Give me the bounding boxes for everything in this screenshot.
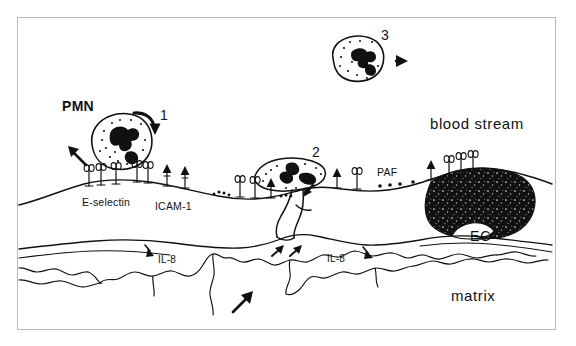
icam1-receptor-right: [333, 168, 342, 188]
label-e-selectin: E-selectin: [82, 196, 130, 208]
arrow-matrix-up-right: [233, 291, 253, 312]
diagram-canvas: PMN blood stream matrix EC E-selectin IC…: [0, 0, 576, 346]
label-step-1: 1: [160, 107, 168, 123]
matrix-fibril-network: [19, 251, 548, 315]
label-step-2: 2: [312, 144, 320, 160]
label-il8-right: IL-8: [327, 253, 345, 264]
e-selectin-receptor: [235, 176, 245, 197]
label-il8-left: IL-8: [158, 254, 176, 265]
icam1-receptor-group: [163, 164, 190, 188]
arrow-pmn-up-left: [68, 146, 86, 165]
icam1-receptor: [181, 166, 190, 188]
label-ec: EC: [470, 228, 491, 244]
arrow-il8-left-down: [145, 245, 154, 257]
icam1-receptor: [163, 164, 172, 186]
e-selectin-receptor: [111, 163, 121, 184]
icam1-receptor: [427, 160, 436, 180]
label-pmn: PMN: [62, 98, 94, 114]
arrow-cell2-down: [303, 185, 313, 197]
label-paf: PAF: [377, 166, 397, 178]
icam1-receptor: [267, 178, 276, 198]
e-selectin-receptor: [143, 162, 153, 183]
arrow-il8-right-down: [363, 247, 373, 259]
pmn-transmigrating-cell: [255, 158, 326, 240]
label-blood-stream: blood stream: [430, 115, 524, 132]
arrow-matrix-pair-b: [290, 245, 302, 256]
pmn-rolling-cell: [92, 114, 152, 170]
e-selectin-receptor-single: [352, 168, 362, 189]
label-step-3: 3: [381, 27, 389, 43]
arrow-cell3-right: [396, 55, 408, 67]
arrow-matrix-pair-a: [272, 245, 284, 256]
label-matrix: matrix: [451, 287, 495, 304]
pmn-free-flowing-cell: [333, 36, 384, 81]
label-icam1: ICAM-1: [155, 200, 192, 212]
